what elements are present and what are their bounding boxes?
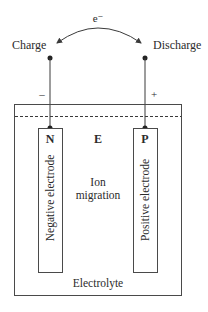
negative-electrode-letter: N — [46, 132, 55, 146]
ion-migration-line2: migration — [76, 189, 121, 202]
electrolyte-label: Electrolyte — [73, 277, 123, 290]
electron-arrow-right — [98, 28, 141, 43]
discharge-label: Discharge — [153, 38, 201, 52]
positive-electrode-label: Positive electrode — [139, 159, 151, 241]
electrolyte-letter: E — [94, 132, 102, 146]
negative-sign: – — [38, 88, 45, 100]
positive-sign: + — [151, 88, 157, 100]
electron-arrow-left — [57, 28, 98, 43]
positive-electrode: P Positive electrode — [134, 129, 158, 273]
charge-label: Charge — [12, 38, 46, 52]
battery-diagram: e⁻ Charge Discharge – + N Negative elect… — [0, 0, 208, 312]
negative-electrode-label: Negative electrode — [44, 155, 57, 242]
electron-label: e⁻ — [93, 12, 104, 24]
ion-migration-line1: Ion — [90, 176, 106, 188]
positive-electrode-letter: P — [141, 132, 148, 146]
negative-electrode: N Negative electrode — [39, 129, 63, 273]
